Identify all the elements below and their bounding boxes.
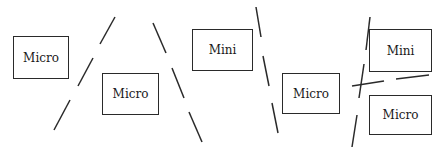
divider-line-segment (272, 103, 278, 133)
box-label: Micro (383, 108, 419, 122)
divider-line-segment (189, 112, 202, 142)
divider-line-segment (100, 17, 115, 44)
divider-line-segment (263, 56, 269, 86)
divider-line-segment (352, 115, 357, 147)
micro-box: Micro (282, 73, 340, 114)
box-label: Micro (113, 87, 149, 101)
micro-box: Micro (369, 95, 432, 135)
divider-line-segment (153, 23, 166, 53)
mini-box: Mini (369, 29, 432, 72)
box-label: Mini (387, 44, 415, 58)
branch-line-segment (396, 75, 429, 79)
micro-box: Micro (13, 36, 69, 79)
divider-line-segment (54, 100, 70, 130)
box-label: Micro (293, 87, 329, 101)
divider-line-segment (78, 58, 93, 86)
micro-box: Micro (102, 73, 159, 115)
box-label: Micro (23, 51, 59, 65)
branch-line-segment (352, 81, 384, 86)
mini-box: Mini (192, 29, 253, 71)
divider-line-segment (256, 7, 261, 37)
divider-line-segment (172, 68, 184, 98)
divider-line-segment (359, 64, 364, 98)
box-label: Mini (209, 43, 237, 57)
